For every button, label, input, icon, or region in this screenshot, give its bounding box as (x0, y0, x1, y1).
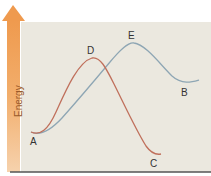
y-axis-label: Energy (13, 87, 25, 117)
point-label-d: D (87, 46, 94, 56)
point-label-e: E (128, 31, 135, 41)
energy-diagram: Energy A D E B C (0, 0, 211, 176)
point-label-c: C (150, 159, 157, 169)
diagram-graphic (0, 0, 211, 176)
point-label-a: A (30, 137, 37, 147)
point-label-b: B (181, 88, 188, 98)
